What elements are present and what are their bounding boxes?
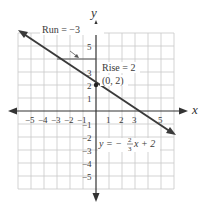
line-arrow-end-icon bbox=[166, 127, 176, 135]
y-axis-label: y bbox=[89, 5, 97, 20]
x-tick: −3 bbox=[51, 115, 61, 125]
y-tick: 1 bbox=[87, 94, 92, 104]
equation-numerator: 2 bbox=[128, 136, 132, 144]
y-tick: −5 bbox=[82, 172, 92, 182]
rise-label: Rise = 2 bbox=[102, 62, 135, 73]
x-tick: 3 bbox=[132, 115, 137, 125]
y-intercept-point bbox=[94, 83, 98, 87]
arrow-down-icon bbox=[93, 193, 100, 202]
arrow-right-icon bbox=[179, 108, 188, 115]
x-axis-label: x bbox=[191, 102, 198, 117]
equation-lhs: y = − bbox=[98, 138, 122, 149]
y-tick: −4 bbox=[82, 159, 92, 169]
y-tick: 3 bbox=[87, 68, 92, 78]
x-tick: 5 bbox=[158, 115, 163, 125]
y-tick: −1 bbox=[82, 120, 92, 130]
x-tick: 1 bbox=[106, 115, 111, 125]
x-tick: −4 bbox=[38, 115, 48, 125]
y-tick: 2 bbox=[87, 81, 92, 91]
x-tick: −2 bbox=[64, 115, 74, 125]
coordinate-plane: y x Run = −3 Rise = 2 (0, 2) y = − 2 3 x… bbox=[0, 0, 203, 208]
y-tick: −3 bbox=[82, 146, 92, 156]
y-tick-labels: 5 3 2 1 −1 −2 −3 −4 −5 bbox=[82, 42, 92, 182]
x-tick-labels: −5 −4 −3 −2 −1 1 2 3 5 bbox=[25, 115, 163, 125]
equation-denominator: 3 bbox=[128, 145, 132, 153]
y-tick: 5 bbox=[87, 42, 92, 52]
point-label: (0, 2) bbox=[102, 75, 124, 87]
x-tick: 2 bbox=[119, 115, 124, 125]
equation-rhs: x + 2 bbox=[133, 138, 155, 149]
x-tick: −5 bbox=[25, 115, 35, 125]
y-tick: −2 bbox=[82, 133, 92, 143]
run-label: Run = −3 bbox=[42, 24, 80, 35]
arrow-left-icon bbox=[8, 108, 17, 115]
